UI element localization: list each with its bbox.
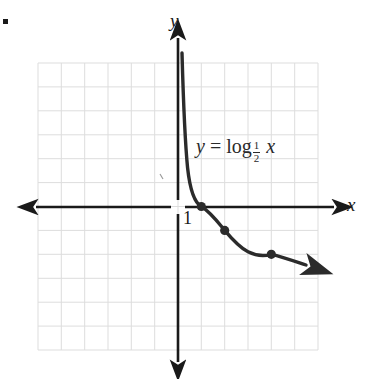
equation-base-denominator: 2 <box>253 153 261 165</box>
equation-operator: = <box>210 136 221 156</box>
logarithm-graph-figure: y x 1 y = log 1 2 x <box>0 0 390 379</box>
point-2-neg1 <box>220 226 229 235</box>
point-1-0 <box>197 202 206 211</box>
y-axis-label: y <box>170 11 178 30</box>
graph-canvas <box>0 0 390 379</box>
point-4-neg2 <box>267 250 276 259</box>
x-tick-label-1: 1 <box>183 209 192 227</box>
scan-artifact-tick <box>160 174 163 179</box>
equation-base-numerator: 1 <box>253 140 261 152</box>
equation-argument: x <box>266 136 275 156</box>
equation-log-function: log <box>226 136 252 156</box>
x-axis-label: x <box>347 195 355 214</box>
equation-annotation: y = log 1 2 x <box>196 134 275 158</box>
equation-lhs: y <box>196 136 205 156</box>
equation-base-fraction: 1 2 <box>253 140 261 164</box>
